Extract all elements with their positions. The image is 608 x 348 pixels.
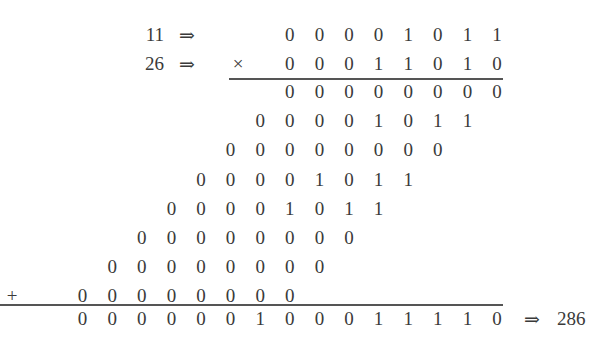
partial-product-bit: 1: [398, 169, 418, 191]
partial-product-bit: 0: [309, 198, 329, 220]
multiplicand-bit: 1: [457, 24, 477, 46]
result-bit: 0: [221, 308, 241, 330]
partial-product-bit: 0: [221, 169, 241, 191]
partial-product-bit: 0: [250, 169, 270, 191]
multiplicand-bit: 0: [309, 24, 329, 46]
multiplicand-bit: 0: [280, 24, 300, 46]
partial-product-bit: 0: [221, 227, 241, 249]
partial-product-bit: 0: [398, 81, 418, 103]
multiplier-bit: 1: [369, 53, 389, 75]
multiplicand-decimal: 11: [124, 24, 164, 46]
partial-product-bit: 0: [280, 139, 300, 161]
partial-product-bit: 0: [250, 139, 270, 161]
partial-product-bit: 0: [102, 256, 122, 278]
partial-product-bit: 1: [280, 198, 300, 220]
partial-product-bit: 0: [398, 139, 418, 161]
result-bit: 0: [280, 308, 300, 330]
partial-product-bit: 0: [280, 81, 300, 103]
partial-product-bit: 1: [369, 198, 389, 220]
partial-product-bit: 1: [369, 169, 389, 191]
partial-product-bit: 0: [339, 110, 359, 132]
multiplier-bit: 0: [428, 53, 448, 75]
partial-product-bit: 0: [309, 227, 329, 249]
result-bit: 0: [309, 308, 329, 330]
result-bit: 0: [102, 308, 122, 330]
result-bit: 1: [457, 308, 477, 330]
partial-product-bit: 1: [457, 110, 477, 132]
partial-product-bit: 0: [250, 227, 270, 249]
arrow-icon: ⇒: [520, 308, 544, 330]
partial-product-bit: 0: [191, 256, 211, 278]
partial-product-bit: 0: [250, 198, 270, 220]
multiplier-bit: 0: [339, 53, 359, 75]
partial-product-bit: 0: [250, 110, 270, 132]
multiplicand-bit: 0: [369, 24, 389, 46]
multiplier-decimal: 26: [124, 53, 164, 75]
partial-product-bit: 0: [221, 139, 241, 161]
partial-product-bit: 0: [428, 81, 448, 103]
partial-product-bit: 0: [161, 227, 181, 249]
partial-product-bit: 0: [191, 198, 211, 220]
partial-product-bit: 0: [221, 256, 241, 278]
partial-product-bit: 1: [309, 169, 329, 191]
multiplier-bit: 0: [309, 53, 329, 75]
multiplier-bit: 0: [280, 53, 300, 75]
partial-product-bit: 0: [428, 139, 448, 161]
result-bit: 0: [73, 308, 93, 330]
operand-separator-line: [229, 78, 503, 80]
sum-separator-line: [0, 304, 503, 306]
partial-product-bit: 0: [369, 81, 389, 103]
multiplicand-bit: 1: [398, 24, 418, 46]
result-bit: 0: [132, 308, 152, 330]
partial-product-bit: 0: [457, 81, 477, 103]
partial-product-bit: 0: [280, 227, 300, 249]
partial-product-bit: 0: [398, 110, 418, 132]
partial-product-bit: 0: [132, 256, 152, 278]
times-sign: ×: [228, 53, 248, 75]
partial-product-bit: 0: [161, 198, 181, 220]
partial-product-bit: 0: [191, 227, 211, 249]
arrow-icon: ⇒: [175, 24, 199, 46]
multiplier-bit: 1: [457, 53, 477, 75]
partial-product-bit: 1: [369, 110, 389, 132]
result-bit: 0: [191, 308, 211, 330]
partial-product-bit: 0: [339, 81, 359, 103]
multiplier-bit: 0: [487, 53, 507, 75]
result-bit: 0: [339, 308, 359, 330]
partial-product-bit: 0: [280, 169, 300, 191]
result-bit: 1: [250, 308, 270, 330]
partial-product-bit: 0: [309, 139, 329, 161]
partial-product-bit: 0: [132, 227, 152, 249]
partial-product-bit: 0: [221, 198, 241, 220]
partial-product-bit: 0: [309, 81, 329, 103]
partial-product-bit: 0: [309, 110, 329, 132]
multiplier-bit: 1: [398, 53, 418, 75]
result-bit: 1: [369, 308, 389, 330]
partial-product-bit: 1: [428, 110, 448, 132]
partial-product-bit: 0: [487, 81, 507, 103]
result-bit: 0: [487, 308, 507, 330]
partial-product-bit: 0: [161, 256, 181, 278]
partial-product-bit: 0: [369, 139, 389, 161]
result-bit: 1: [428, 308, 448, 330]
partial-product-bit: 0: [339, 169, 359, 191]
partial-product-bit: 0: [339, 139, 359, 161]
partial-product-bit: 1: [339, 198, 359, 220]
multiplicand-bit: 1: [487, 24, 507, 46]
partial-product-bit: 0: [280, 256, 300, 278]
partial-product-bit: 0: [309, 256, 329, 278]
partial-product-bit: 0: [191, 169, 211, 191]
result-bit: 0: [161, 308, 181, 330]
multiplicand-bit: 0: [339, 24, 359, 46]
result-decimal: 286: [557, 308, 586, 330]
partial-product-bit: 0: [250, 256, 270, 278]
multiplicand-bit: 0: [428, 24, 448, 46]
partial-product-bit: 0: [280, 110, 300, 132]
partial-product-bit: 0: [339, 227, 359, 249]
arrow-icon: ⇒: [175, 53, 199, 75]
result-bit: 1: [398, 308, 418, 330]
